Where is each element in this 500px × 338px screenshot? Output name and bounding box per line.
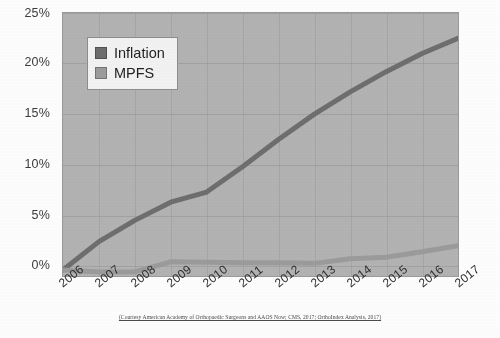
y-tick-label: 5%: [32, 208, 50, 222]
legend-swatch-icon: [95, 47, 107, 59]
plot-area: Inflation MPFS: [62, 12, 459, 277]
y-tick-label: 25%: [24, 6, 50, 20]
chart-figure: 25% 20% 15% 10% 5% 0%: [0, 0, 500, 338]
y-tick-label: 15%: [24, 106, 50, 120]
legend-item-inflation: Inflation: [95, 43, 165, 63]
scanned-page: 25% 20% 15% 10% 5% 0%: [0, 0, 500, 338]
x-tick-label: 2006: [56, 262, 86, 290]
legend-swatch-icon: [95, 67, 107, 79]
y-tick-label: 20%: [24, 55, 50, 69]
legend-item-mpfs: MPFS: [95, 63, 165, 83]
y-axis: 25% 20% 15% 10% 5% 0%: [0, 0, 58, 289]
source-caption: (Courtesy American Academy of Orthopaedi…: [0, 314, 500, 320]
y-tick-label: 0%: [32, 258, 50, 272]
chart-legend: Inflation MPFS: [87, 37, 178, 90]
legend-label: Inflation: [114, 46, 165, 61]
y-tick-label: 10%: [24, 157, 50, 171]
legend-label: MPFS: [114, 66, 154, 81]
